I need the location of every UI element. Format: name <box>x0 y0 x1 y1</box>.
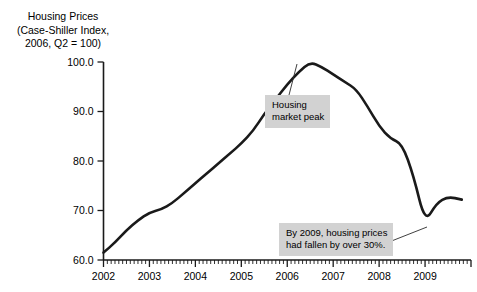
x-tick-label: 2009 <box>413 270 437 282</box>
decline-leader-line <box>389 227 427 242</box>
x-tick-label: 2004 <box>184 270 208 282</box>
x-axis-tick-labels: 20022003200420052006200720082009 <box>92 270 437 282</box>
x-tick-label: 2005 <box>230 270 254 282</box>
annotation-housing-market-peak: Housing market peak <box>265 95 330 128</box>
x-tick-label: 2002 <box>92 270 116 282</box>
annotation-peak-line-1: Housing <box>272 99 324 111</box>
annotation-decline-line-2: had fallen by over 30%. <box>286 239 387 251</box>
y-tick-label: 80.0 <box>73 155 94 167</box>
annotation-price-decline: By 2009, housing prices had fallen by ov… <box>279 223 393 256</box>
y-tick-label: 100.0 <box>67 56 93 68</box>
y-axis-ticks <box>98 62 104 260</box>
x-axis-minor-ticks <box>107 260 471 267</box>
housing-prices-chart: Housing Prices (Case-Shiller Index, 2006… <box>0 0 477 292</box>
chart-canvas: 60.070.080.090.0100.0 200220032004200520… <box>0 0 477 292</box>
annotation-peak-line-2: market peak <box>272 111 324 123</box>
y-tick-label: 60.0 <box>73 254 94 266</box>
x-tick-label: 2008 <box>367 270 391 282</box>
x-tick-label: 2003 <box>138 270 162 282</box>
y-tick-label: 70.0 <box>73 204 94 216</box>
annotation-decline-line-1: By 2009, housing prices <box>286 227 387 239</box>
y-tick-label: 90.0 <box>73 105 94 117</box>
y-axis-tick-labels: 60.070.080.090.0100.0 <box>67 56 93 266</box>
x-tick-label: 2006 <box>276 270 300 282</box>
x-tick-label: 2007 <box>322 270 346 282</box>
